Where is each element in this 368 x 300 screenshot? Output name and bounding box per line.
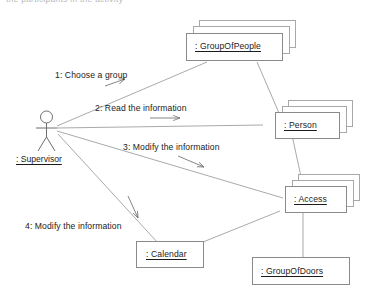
uml-collaboration-diagram: the participants in the activity: [0, 0, 368, 300]
object-calendar-label: : Calendar: [146, 249, 187, 259]
object-person-label: : Person: [284, 120, 317, 130]
message-label-2: 2: Read the information: [95, 103, 187, 113]
object-groupofdoors-label: : GroupOfDoors: [261, 266, 323, 276]
message-label-3: 3: Modify the information: [123, 142, 220, 152]
object-groupofpeople-label: : GroupOfPeople: [195, 41, 261, 51]
message-label-1: 1: Choose a group: [55, 70, 127, 80]
actor-supervisor-label: : Supervisor: [16, 154, 62, 164]
stick-figure-actor-icon: [36, 111, 57, 151]
message-label-4: 4: Modify the information: [25, 221, 122, 231]
object-access-label: : Access: [294, 194, 327, 204]
